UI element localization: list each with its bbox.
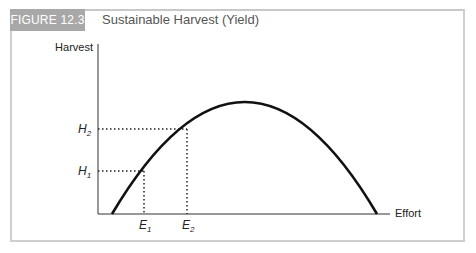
yield-chart: Harvest Effort H1 H2 E1 E2 bbox=[0, 0, 476, 253]
h2-label: H2 bbox=[78, 122, 92, 138]
e1-label: E1 bbox=[139, 218, 151, 234]
y-axis-label: Harvest bbox=[55, 41, 93, 53]
e2-label: E2 bbox=[182, 218, 195, 234]
h1-label: H1 bbox=[78, 164, 91, 180]
yield-curve bbox=[112, 102, 377, 214]
x-axis-label: Effort bbox=[395, 207, 421, 219]
